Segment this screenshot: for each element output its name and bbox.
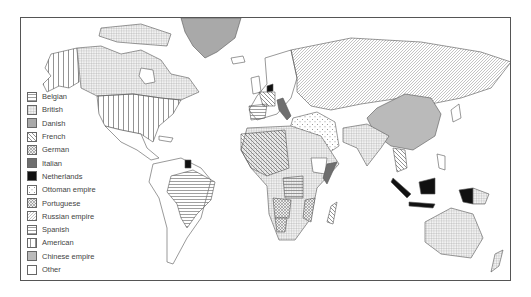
map-legend: Belgian British Danish French German Ita… [27,90,117,276]
region-angola [273,198,291,218]
legend-item-belgian: Belgian [27,90,117,103]
legend-item-netherlands: Netherlands [27,170,117,183]
legend-item-russian: Russian empire [27,210,117,223]
swatch-fine-vertical-gray-icon [27,251,37,261]
legend-item-chinese: Chinese empire [27,250,117,263]
region-java [409,202,435,208]
legend-item-other: Other [27,263,117,276]
region-italy [277,98,291,120]
region-australia [425,208,483,258]
region-caribbean [159,136,173,142]
legend-label: Portuguese [42,199,80,208]
region-new-guinea-east [473,188,489,204]
region-greenland [181,18,241,58]
legend-label: Danish [42,119,65,128]
swatch-diagonal-backslash-icon [27,132,37,142]
legend-item-danish: Danish [27,117,117,130]
legend-label: Italian [42,159,62,168]
region-new-guinea-west [459,188,473,204]
region-suriname [185,160,191,168]
swatch-horizontal-lines-icon [27,92,37,102]
legend-item-american: American [27,236,117,249]
legend-label: Russian empire [42,212,94,221]
region-arctic-islands [99,24,171,46]
region-german-sw-africa [275,218,287,232]
legend-item-ottoman: Ottoman empire [27,183,117,196]
legend-label: Other [42,265,61,274]
swatch-solid-dark-gray-icon [27,158,37,168]
legend-label: Belgian [42,92,67,101]
swatch-diamond-crosshatch-icon [27,198,37,208]
region-madagascar [327,202,337,224]
legend-item-french: French [27,130,117,143]
legend-label: Netherlands [42,172,82,181]
region-british-isles [251,76,261,94]
legend-label: Ottoman empire [42,185,96,194]
legend-item-italian: Italian [27,156,117,169]
swatch-dense-crosshatch-icon [27,145,37,155]
legend-item-british: British [27,103,117,116]
region-japan [451,104,461,122]
region-french-africa [241,130,289,176]
region-belgian-congo [283,176,303,198]
swatch-dots-icon [27,185,37,195]
swatch-vertical-lines-icon [27,238,37,248]
region-indochina [393,148,407,172]
world-map-frame: Belgian British Danish French German Ita… [20,17,511,281]
region-sumatra [391,178,411,198]
region-philippines [437,154,445,170]
swatch-diagonal-slash-icon [27,211,37,221]
legend-label: British [42,105,63,114]
swatch-blank-icon [27,265,37,275]
swatch-grid-icon [27,105,37,115]
legend-label: German [42,145,69,154]
region-iceland [231,56,245,64]
swatch-horizontal-lines-dense-icon [27,225,37,235]
legend-label: American [42,238,74,247]
region-new-zealand [491,250,503,272]
swatch-solid-light-gray-icon [27,118,37,128]
legend-label: Chinese empire [42,252,95,261]
region-spain [249,104,267,120]
legend-label: Spanish [42,225,69,234]
region-mozambique [303,198,315,222]
legend-item-german: German [27,143,117,156]
legend-item-portuguese: Portuguese [27,196,117,209]
legend-label: French [42,132,65,141]
swatch-solid-black-icon [27,171,37,181]
region-borneo [419,178,435,194]
region-alaska [43,48,79,92]
legend-item-spanish: Spanish [27,223,117,236]
